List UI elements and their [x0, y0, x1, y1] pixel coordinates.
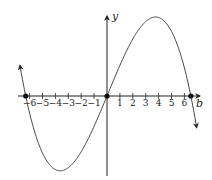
- x-tick-label: 4: [156, 98, 162, 108]
- x-tick-label: −2: [75, 98, 88, 108]
- x-tick-label: 3: [143, 98, 149, 108]
- root-point: [23, 93, 28, 98]
- x-tick-label: −4: [49, 98, 63, 108]
- root-point: [188, 93, 193, 98]
- x-tick-label: 1: [117, 98, 123, 108]
- y-axis-label: y: [111, 10, 119, 23]
- x-tick-label: −6: [23, 98, 37, 108]
- root-point: [104, 93, 109, 98]
- x-tick-label: −3: [62, 98, 76, 108]
- x-tick-label: −5: [36, 98, 50, 108]
- x-tick-label: 5: [169, 98, 175, 108]
- x-tick-label: 6: [182, 98, 188, 108]
- x-tick-label: −1: [87, 98, 100, 108]
- x-axis-label: b: [196, 97, 203, 110]
- x-tick-label: 2: [130, 98, 136, 108]
- cubic-graph: −6−5−4−3−2−1123456 y b: [0, 0, 212, 180]
